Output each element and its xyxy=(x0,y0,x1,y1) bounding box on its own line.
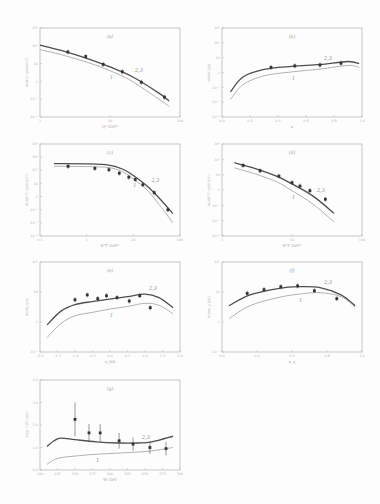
data-point xyxy=(149,446,152,449)
data-point xyxy=(88,431,91,434)
x-tick-label: 250 xyxy=(142,472,149,476)
x-axis-label: W GeV xyxy=(103,477,117,482)
x-tick-label: 300 xyxy=(177,472,184,476)
panel-label: (g) xyxy=(107,386,114,391)
theory-curve-2-3 xyxy=(47,436,173,446)
plot-frame xyxy=(40,380,180,470)
x-tick-label: 125 xyxy=(54,472,61,476)
y-tick-label: 0.0 xyxy=(32,468,38,472)
data-point xyxy=(132,443,135,446)
x-tick-label: 175 xyxy=(89,472,96,476)
y-tick-label: 1.0 xyxy=(32,446,38,450)
data-point xyxy=(118,439,121,442)
curve-label-1: 1 xyxy=(96,457,99,463)
x-tick-label: 100 xyxy=(37,472,44,476)
y-axis-label: σ(γp → jX) (nb) xyxy=(25,411,29,437)
theory-curve-1 xyxy=(47,448,173,465)
data-point xyxy=(99,431,102,434)
y-tick-label: 2.0 xyxy=(32,423,38,427)
x-tick-label: 275 xyxy=(159,472,166,476)
x-tick-label: 225 xyxy=(124,472,131,476)
x-tick-label: 150 xyxy=(72,472,79,476)
chart-panel-g: 1001251501752002252502753000.01.02.03.04… xyxy=(0,0,380,504)
y-tick-label: 3.0 xyxy=(32,401,38,405)
x-tick-label: 200 xyxy=(107,472,114,476)
curve-label-2-3: 2,3 xyxy=(141,434,150,440)
data-point xyxy=(165,447,168,450)
data-point xyxy=(74,418,77,421)
y-tick-label: 4.0 xyxy=(32,378,38,382)
